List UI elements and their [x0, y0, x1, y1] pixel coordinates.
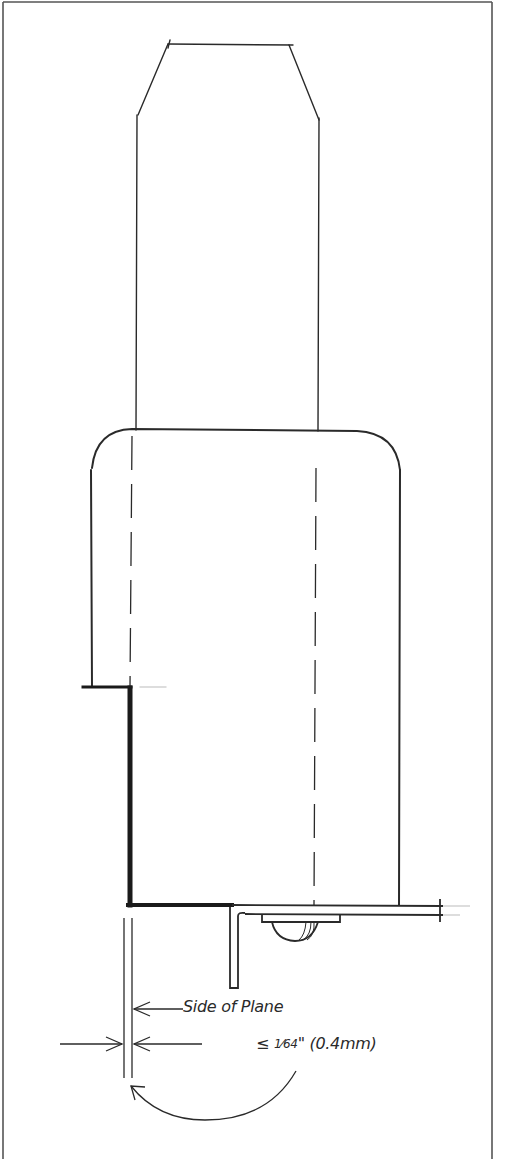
tolerance-unit: "	[298, 1034, 305, 1053]
hidden-lines	[130, 436, 316, 905]
technical-drawing	[0, 0, 505, 1159]
tolerance-metric: (0.4mm)	[309, 1034, 376, 1053]
plane-main-body	[91, 429, 400, 905]
gap-dimension-arrows	[60, 1037, 202, 1051]
plane-upper-body	[136, 40, 319, 431]
gap-lines	[124, 918, 132, 1078]
tolerance-fraction: 1⁄64	[274, 1037, 298, 1051]
side-arrow	[134, 1002, 183, 1016]
tolerance-symbol: ≤	[256, 1034, 269, 1053]
plane-side-profile	[83, 687, 232, 905]
shooting-board	[230, 899, 470, 988]
tolerance-label: ≤ 1⁄64" (0.4mm)	[256, 1034, 377, 1053]
curved-arrow	[131, 1071, 296, 1120]
drawing-frame	[3, 2, 492, 1159]
side-of-plane-label: Side of Plane	[183, 997, 283, 1016]
